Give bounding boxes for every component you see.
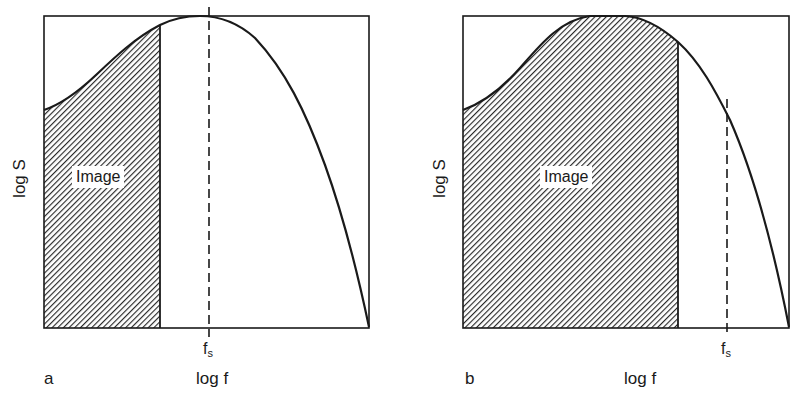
spectrum-figure: log S Image fs a log f log S Image fs b … (0, 0, 798, 395)
sampling-frequency-label-b: fs (721, 341, 731, 359)
panel-label-a: a (44, 370, 53, 387)
spectrum-plots (0, 0, 798, 395)
x-axis-label-b: log f (624, 370, 656, 387)
x-axis-label-a: log f (196, 370, 228, 387)
panel-b (463, 16, 789, 337)
y-axis-label-b: log S (431, 159, 448, 199)
panel-label-b: b (465, 370, 474, 387)
image-region-label-a: Image (72, 166, 124, 188)
y-axis-label-a: log S (11, 159, 28, 199)
fs-sub-a: s (207, 347, 213, 359)
sampling-frequency-label-a: fs (203, 341, 213, 359)
fs-sub-b: s (725, 347, 731, 359)
image-region-label-b: Image (540, 166, 592, 188)
